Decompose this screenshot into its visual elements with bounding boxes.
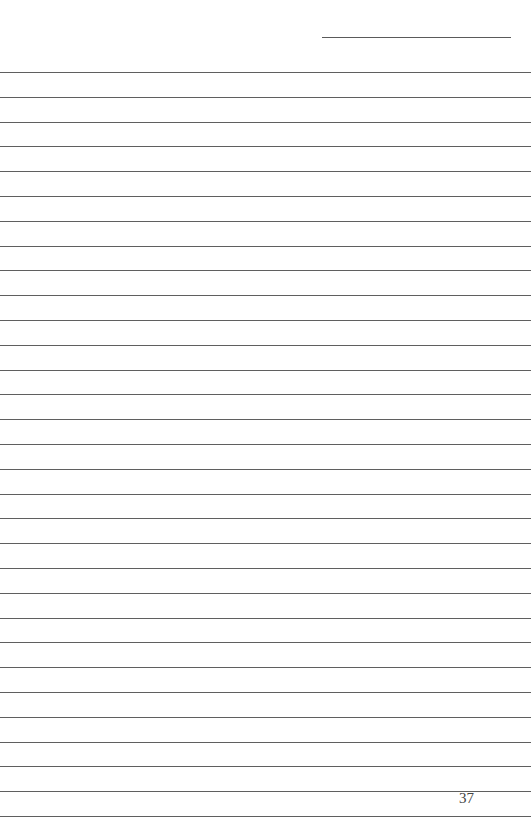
ruled-line [0,320,531,321]
ruled-line [0,444,531,445]
ruled-line [0,618,531,619]
ruled-line [0,97,531,98]
ruled-line [0,494,531,495]
ruled-line [0,345,531,346]
header-write-line [322,37,511,38]
ruled-line [0,642,531,643]
ruled-line [0,419,531,420]
ruled-line [0,370,531,371]
ruled-line [0,469,531,470]
ruled-line [0,667,531,668]
ruled-line [0,791,531,792]
ruled-line [0,816,531,817]
ruled-line [0,146,531,147]
ruled-line [0,295,531,296]
ruled-line [0,692,531,693]
ruled-line [0,593,531,594]
ruled-line [0,221,531,222]
ruled-line [0,543,531,544]
ruled-line [0,270,531,271]
ruled-line [0,518,531,519]
ruled-line [0,72,531,73]
ruled-line [0,394,531,395]
notebook-page: 37 [0,0,532,822]
ruled-line [0,742,531,743]
ruled-line [0,171,531,172]
ruled-line [0,196,531,197]
ruled-line [0,122,531,123]
ruled-line [0,717,531,718]
ruled-line [0,766,531,767]
ruled-line [0,246,531,247]
ruled-line [0,568,531,569]
page-number: 37 [459,790,474,806]
